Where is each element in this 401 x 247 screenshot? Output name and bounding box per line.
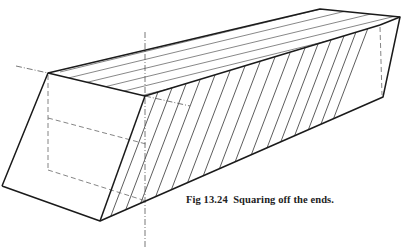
hidden-edges	[48, 27, 382, 201]
figure: Fig 13.24 Squaring off the ends.	[0, 0, 401, 247]
figure-caption: Fig 13.24 Squaring off the ends.	[186, 194, 334, 205]
top-face-hatching	[60, 0, 400, 96]
prism-drawing	[0, 0, 401, 247]
prism-outline	[2, 9, 400, 221]
